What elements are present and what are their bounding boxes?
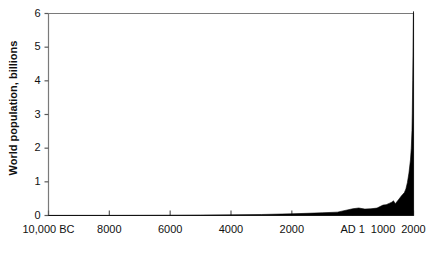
y-tick-label: 0 — [27, 209, 41, 221]
y-tick-label: 4 — [27, 74, 41, 86]
y-tick-label: 6 — [27, 7, 41, 19]
y-tick-label: 1 — [27, 175, 41, 187]
x-tick-label: 2000 — [369, 223, 440, 235]
y-tick-label: 2 — [27, 141, 41, 153]
plot-frame-border — [49, 14, 414, 216]
y-tick-label: 5 — [27, 40, 41, 52]
population-area-series — [49, 11, 414, 215]
axis-lines — [49, 14, 414, 216]
plot-area — [0, 0, 440, 254]
world-population-chart: World population, billions 0123456 10,00… — [0, 0, 440, 254]
y-tick-label: 3 — [27, 108, 41, 120]
